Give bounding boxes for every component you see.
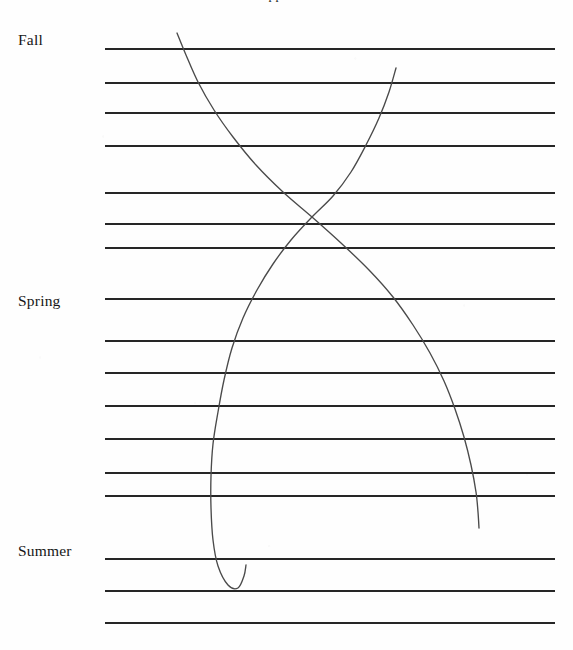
rule-line [105,145,555,147]
rule-line [105,495,555,497]
rule-line [105,558,555,560]
rule-line [105,192,555,194]
hand-drawn-curve-descending-right [177,33,479,528]
season-label-fall: Fall [18,32,43,48]
paper-noise-texture [0,0,573,650]
scanned-page: Appendix FallSpringSummer [0,0,573,650]
rule-line [105,438,555,440]
rule-line [105,340,555,342]
rule-line [105,48,555,50]
rule-line [105,298,555,300]
season-label-spring: Spring [18,293,61,309]
rule-line [105,112,555,114]
rule-line [105,472,555,474]
rule-line [105,247,555,249]
rule-line [105,372,555,374]
rule-line [105,405,555,407]
season-label-summer: Summer [18,543,72,559]
rule-line [105,223,555,225]
rule-line [105,622,555,624]
cropped-title-text: Appendix [258,0,314,2]
cropped-title-remnant: Appendix [0,0,573,8]
rule-line [105,82,555,84]
rule-line [105,590,555,592]
hand-drawn-curve-layer [0,0,573,650]
